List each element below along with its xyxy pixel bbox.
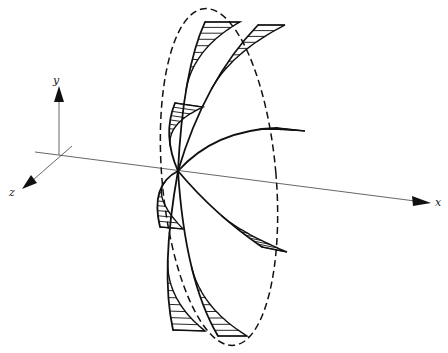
blade-spar bbox=[168, 171, 178, 330]
y-axis-label: y bbox=[52, 74, 60, 87]
blade-lower-right bbox=[178, 171, 287, 252]
hatch-line bbox=[171, 318, 192, 319]
hatch-line bbox=[175, 103, 203, 107]
coordinate-triad: y z bbox=[8, 74, 72, 199]
blade-spar bbox=[157, 171, 178, 227]
blade-spar bbox=[178, 128, 277, 171]
x-axis-line bbox=[35, 152, 415, 201]
blades-group bbox=[157, 22, 305, 336]
blade-spar bbox=[178, 22, 205, 171]
hatch-line bbox=[158, 211, 169, 212]
z-axis-line bbox=[33, 146, 72, 180]
x-axis-arrowhead bbox=[412, 196, 431, 206]
hatch-line bbox=[172, 324, 198, 325]
hatch-line bbox=[170, 311, 186, 312]
z-axis-arrowhead bbox=[22, 175, 37, 189]
blade-top-right bbox=[178, 25, 285, 171]
hatch-line bbox=[172, 111, 190, 114]
load-envelope bbox=[192, 267, 248, 336]
blade-upper-left bbox=[169, 103, 203, 171]
blade-bottom-right bbox=[178, 171, 247, 336]
z-axis-label: z bbox=[8, 186, 15, 199]
hatch-line bbox=[170, 120, 180, 122]
y-axis-arrowhead bbox=[54, 86, 64, 102]
x-axis-label: x bbox=[435, 196, 442, 209]
propeller-diagram: y z x bbox=[0, 0, 448, 353]
blade-top-left bbox=[178, 22, 240, 171]
hatch-line bbox=[158, 201, 164, 202]
blade-spar bbox=[178, 25, 258, 171]
hatch-line bbox=[170, 124, 177, 125]
hatch-line bbox=[233, 226, 235, 227]
hatch-line bbox=[173, 107, 196, 110]
hatch-line bbox=[169, 129, 174, 130]
blade-right bbox=[178, 128, 305, 171]
